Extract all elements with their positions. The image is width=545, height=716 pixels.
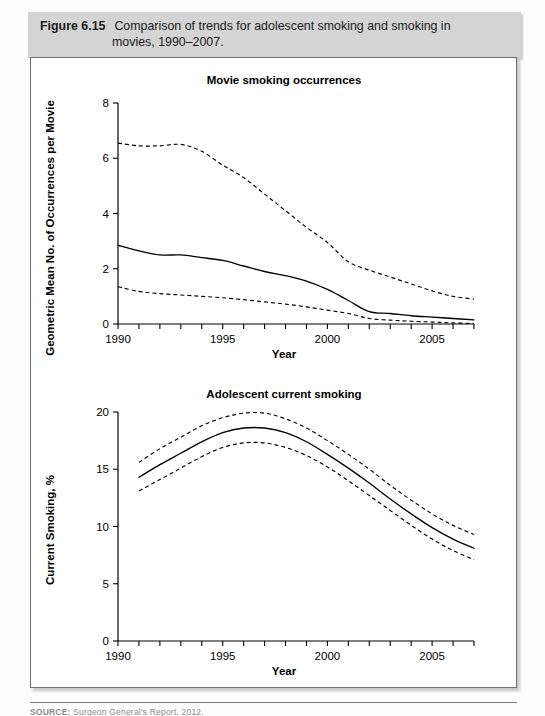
figure-caption-line-1: Comparison of trends for adolescent smok… — [114, 19, 450, 33]
x-tick-label: 2000 — [315, 333, 341, 345]
chart-series-teen — [139, 412, 474, 559]
chart-adolescent-current-smoking: Adolescent current smoking Current Smoki… — [31, 380, 518, 680]
series-line — [118, 245, 474, 320]
chart-title-movie: Movie smoking occurrences — [207, 74, 362, 86]
x-axis-label-movie: Year — [272, 348, 297, 360]
figure-page: Figure 6.15Comparison of trends for adol… — [0, 0, 545, 716]
chart-ticks-teen: 051015201990199520002005 — [96, 406, 474, 662]
x-tick-label: 1995 — [210, 333, 236, 345]
series-line — [118, 143, 474, 299]
y-tick-label: 8 — [103, 97, 109, 109]
source-divider — [30, 702, 517, 703]
y-tick-label: 15 — [96, 463, 109, 475]
x-tick-label: 1995 — [210, 650, 236, 662]
y-axis-label-teen: Current Smoking, % — [44, 475, 56, 585]
x-tick-label: 2005 — [419, 650, 445, 662]
series-line — [139, 427, 474, 548]
chart-ticks-movie: 024681990199520002005 — [103, 97, 474, 345]
y-tick-label: 0 — [103, 318, 109, 330]
y-axis-label-movie: Geometric Mean No. of Occurrences per Mo… — [44, 100, 56, 356]
chart-movie-smoking-occurrences: Movie smoking occurrences Geometric Mean… — [31, 68, 518, 363]
y-tick-label: 20 — [96, 406, 109, 418]
chart-axes-teen — [118, 412, 474, 641]
series-line — [118, 287, 474, 324]
figure-frame: Movie smoking occurrences Geometric Mean… — [30, 57, 517, 688]
y-tick-label: 0 — [103, 635, 109, 647]
x-tick-label: 2000 — [315, 650, 341, 662]
x-tick-label: 1990 — [105, 650, 131, 662]
figure-caption-line-2: movies, 1990–2007. — [40, 34, 511, 51]
figure-caption: Figure 6.15Comparison of trends for adol… — [40, 18, 511, 51]
y-tick-label: 6 — [103, 152, 109, 164]
x-tick-label: 1990 — [105, 333, 131, 345]
chart-series-movie — [118, 143, 474, 323]
y-tick-label: 4 — [103, 208, 110, 220]
x-axis-label-teen: Year — [272, 665, 297, 677]
chart-title-teen: Adolescent current smoking — [206, 388, 361, 400]
chart-axes-movie — [118, 103, 474, 324]
series-line — [139, 412, 474, 534]
figure-caption-bar: Figure 6.15Comparison of trends for adol… — [28, 12, 521, 58]
chart-movie-svg: Movie smoking occurrences Geometric Mean… — [31, 68, 518, 363]
chart-teen-svg: Adolescent current smoking Current Smoki… — [31, 380, 518, 680]
y-tick-label: 2 — [103, 263, 109, 275]
figure-number-label: Figure 6.15 — [40, 19, 105, 33]
source-body: Surgeon General's Report, 2012. — [73, 707, 204, 716]
x-tick-label: 2005 — [419, 333, 445, 345]
series-line — [139, 442, 474, 559]
source-label: SOURCE: — [30, 707, 71, 716]
y-tick-label: 5 — [103, 578, 109, 590]
y-tick-label: 10 — [96, 521, 109, 533]
source-note: SOURCE: Surgeon General's Report, 2012. — [30, 707, 517, 716]
